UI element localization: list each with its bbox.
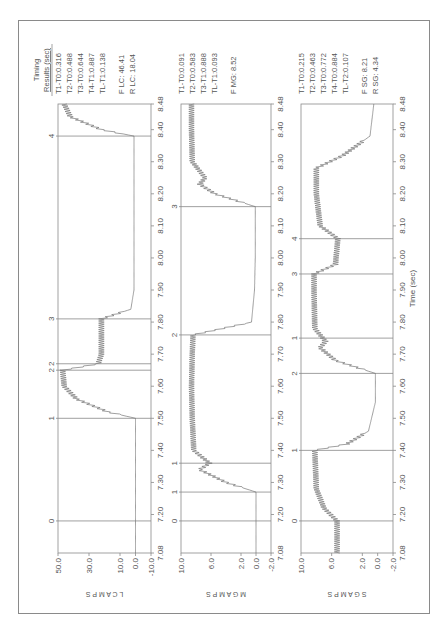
y-tick-label: 50.0	[54, 557, 63, 573]
x-tick-label: 7.60	[156, 378, 165, 394]
current-trace	[311, 104, 375, 553]
x-axis-title: Time (sec)	[408, 269, 417, 307]
timing-result: T1-T0:0.316	[54, 53, 63, 94]
event-marker-label: 3	[290, 271, 299, 276]
x-tick-label: 8.48	[276, 96, 285, 112]
event-marker-label: 1	[47, 416, 56, 421]
x-tick-label: 8.00	[398, 250, 407, 266]
x-tick-label: 7.90	[156, 282, 165, 298]
timing-result: T3-T0:0.644	[76, 53, 85, 94]
panel-mg-amps: 10.06.02.00.0-2.0M G A M P S7.087.207.30…	[170, 96, 285, 598]
timing-result: T1-T0:0.215	[297, 53, 306, 94]
force-result: F MG: 8.52	[229, 56, 238, 94]
x-tick-label: 8.10	[398, 218, 407, 234]
timing-result: TL-T1:0.093	[210, 53, 219, 94]
timing-result: TL-T1:0.138	[98, 53, 107, 94]
x-tick-label: 7.70	[276, 346, 285, 362]
y-tick-label: 6.0	[207, 557, 216, 569]
x-tick-label: 7.40	[398, 442, 407, 458]
y-tick-label: 0.0	[373, 557, 382, 569]
event-marker-label: 4	[290, 236, 299, 241]
x-tick-label: 7.20	[398, 506, 407, 522]
x-tick-label: 8.10	[156, 218, 165, 234]
event-marker-label: 0	[47, 518, 56, 523]
x-tick-label: 7.50	[398, 410, 407, 426]
timing-results: Timing Results (sec) T1-T0:0.316T2-T0:0.…	[32, 44, 380, 96]
x-tick-label: 7.70	[398, 346, 407, 362]
x-tick-label: 8.20	[398, 185, 407, 201]
x-tick-label: 7.08	[156, 545, 165, 561]
x-tick-label: 7.08	[398, 545, 407, 561]
x-tick-label: 7.70	[156, 346, 165, 362]
y-tick-label: -2.0	[267, 557, 276, 571]
event-marker-label: 2	[290, 371, 299, 376]
event-marker-label: 2	[47, 367, 56, 372]
plot-box	[181, 104, 271, 553]
x-tick-label: 7.80	[156, 314, 165, 330]
y-axis-title: M G A M P S	[206, 591, 246, 598]
y-tick-label: 0.0	[131, 557, 140, 569]
x-tick-label: 8.20	[276, 185, 285, 201]
rotated-figure: 50.030.010.00.0-10.0L C A M P S7.087.207…	[19, 21, 431, 615]
panels: 50.030.010.00.0-10.0L C A M P S7.087.207…	[47, 96, 417, 598]
timing-result: T4-T1:0.887	[87, 53, 96, 94]
x-tick-label: 8.40	[276, 121, 285, 137]
x-tick-label: 7.20	[276, 506, 285, 522]
y-tick-label: 2.0	[358, 557, 367, 569]
figure-frame: 50.030.010.00.0-10.0L C A M P S7.087.207…	[18, 20, 430, 614]
timing-result: T2-T0:0.583	[188, 53, 197, 94]
timing-result: TL-T2:0.107	[341, 53, 350, 94]
event-marker-label: 0	[170, 518, 179, 523]
y-tick-label: 2.0	[237, 557, 246, 569]
x-tick-label: 8.40	[398, 121, 407, 137]
force-result: F SG: 8.21	[360, 58, 369, 94]
timing-result: T2-T0:0.463	[308, 53, 317, 94]
results-header-line2: Results (sec)	[42, 48, 51, 92]
y-tick-label: 30.0	[85, 557, 94, 573]
x-tick-label: 8.00	[276, 250, 285, 266]
event-marker-label: 0	[290, 518, 299, 523]
results-header-line1: Timing	[32, 59, 41, 81]
y-tick-label: -2.0	[389, 557, 398, 571]
x-tick-label: 7.50	[276, 410, 285, 426]
x-tick-label: 7.30	[398, 474, 407, 490]
x-tick-label: 7.08	[276, 545, 285, 561]
y-tick-label: 10.0	[297, 557, 306, 573]
x-tick-label: 8.10	[276, 218, 285, 234]
x-tick-label: 7.80	[276, 314, 285, 330]
event-marker-label: 3	[47, 316, 56, 321]
event-marker-label: 1	[290, 448, 299, 453]
x-tick-label: 8.48	[398, 96, 407, 112]
y-tick-label: 10.0	[177, 557, 186, 573]
y-tick-label: 10.0	[116, 557, 125, 573]
x-tick-label: 7.90	[398, 282, 407, 298]
x-tick-label: 8.48	[156, 96, 165, 112]
current-trace	[189, 104, 256, 553]
x-tick-label: 7.60	[276, 378, 285, 394]
panel-lc-amps: 50.030.010.00.0-10.0L C A M P S7.087.207…	[47, 96, 165, 598]
x-tick-label: 7.20	[156, 506, 165, 522]
x-tick-label: 8.40	[156, 121, 165, 137]
plot-box	[58, 104, 151, 553]
y-tick-label: 6.0	[327, 557, 336, 569]
event-marker-label: 1	[170, 460, 179, 465]
x-tick-label: 8.20	[156, 185, 165, 201]
force-result: R SG: 4.34	[371, 57, 380, 94]
x-tick-label: 7.90	[276, 282, 285, 298]
x-tick-label: 7.80	[398, 314, 407, 330]
event-marker-label: 4	[47, 133, 56, 138]
x-tick-label: 7.40	[276, 442, 285, 458]
y-tick-label: -10.0	[147, 557, 156, 576]
current-trace	[60, 104, 136, 553]
x-tick-label: 7.30	[156, 474, 165, 490]
timing-result: T3-T0:0.772	[319, 53, 328, 94]
x-tick-label: 7.50	[156, 410, 165, 426]
y-axis-title: L C A M P S	[85, 591, 123, 598]
timing-result: T3-T1:0.888	[199, 53, 208, 94]
event-marker-label: 1	[170, 489, 179, 494]
event-marker-label: 1	[290, 335, 299, 340]
x-tick-label: 8.30	[398, 153, 407, 169]
y-axis-title: S G A M P S	[327, 591, 366, 598]
timing-result: T1-T0:0.091	[177, 53, 186, 94]
force-result: R LC: 18.04	[128, 54, 137, 94]
